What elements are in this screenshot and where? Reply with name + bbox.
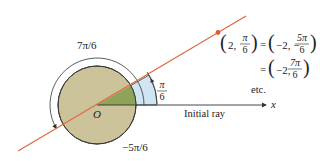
equation-line-1: ( 2, π 6 ) = ( −2, − 5π 6 ) bbox=[220, 31, 317, 55]
x-axis-label: x bbox=[270, 98, 276, 110]
angle-pi-over-6-num: π bbox=[159, 79, 165, 90]
eq2-equals: = bbox=[260, 63, 266, 75]
origin-label: O bbox=[93, 108, 101, 120]
eq1-left-theta-num: π bbox=[242, 32, 248, 43]
eq1-left-r: 2, bbox=[228, 39, 237, 51]
right-paren: ) bbox=[310, 31, 317, 54]
left-paren: ( bbox=[268, 31, 275, 54]
terminal-line bbox=[18, 16, 246, 151]
eq2-right-r: −2, bbox=[276, 64, 291, 76]
etc-label: etc. bbox=[251, 84, 266, 95]
eq1-right-theta-num: 5π bbox=[297, 32, 308, 43]
equation-line-2: = ( −2, 7π 6 ) bbox=[260, 56, 310, 80]
eq1-left-theta-den: 6 bbox=[243, 44, 248, 55]
right-paren: ) bbox=[303, 56, 310, 79]
angle-neg-5pi-over-6-label: −5π/6 bbox=[122, 141, 148, 153]
right-paren: ) bbox=[251, 31, 258, 54]
left-paren: ( bbox=[220, 31, 227, 54]
eq1-right-r: −2, − bbox=[276, 39, 299, 51]
initial-ray-label: Initial ray bbox=[184, 108, 226, 119]
angle-pi-over-6-den: 6 bbox=[160, 91, 165, 102]
eq1-right-theta-den: 6 bbox=[300, 44, 305, 55]
eq1-equals: = bbox=[260, 38, 266, 50]
polar-coordinates-diagram: O 7π/6 −5π/6 π 6 Initial ray x ( 2, π 6 … bbox=[0, 0, 320, 161]
left-paren: ( bbox=[268, 56, 275, 79]
eq2-right-theta-den: 6 bbox=[293, 69, 298, 80]
eq2-right-theta-num: 7π bbox=[290, 57, 301, 68]
angle-7pi-over-6-label: 7π/6 bbox=[77, 39, 97, 51]
